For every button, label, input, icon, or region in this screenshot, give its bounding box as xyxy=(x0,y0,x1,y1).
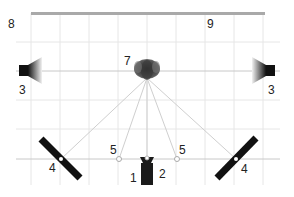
top-wall-bar xyxy=(31,12,265,15)
axis-lines xyxy=(16,71,280,159)
reflector-right-label: 4 xyxy=(241,163,248,175)
marker-left-label: 5 xyxy=(110,144,117,156)
area-label-left: 8 xyxy=(8,18,15,30)
studio-setup-diagram: 8 9 7 3 3 4 4 5 5 1 2 xyxy=(0,0,294,197)
marker-right-icon xyxy=(175,157,180,162)
camera-left-label: 1 xyxy=(130,172,137,184)
speaker-right-label: 3 xyxy=(268,84,275,96)
camera-right-label: 2 xyxy=(159,168,166,180)
camera-icon xyxy=(140,156,154,185)
reflector-left-label: 4 xyxy=(49,162,56,174)
diagram-canvas xyxy=(0,0,294,197)
sight-lines xyxy=(61,78,236,159)
marker-left-icon xyxy=(117,157,122,162)
area-label-right: 9 xyxy=(207,18,214,30)
marker-right-label: 5 xyxy=(179,144,186,156)
subject-head-icon xyxy=(134,59,160,80)
reflector-right-icon xyxy=(217,138,256,178)
speaker-left-label: 3 xyxy=(19,84,26,96)
subject-label: 7 xyxy=(124,55,131,67)
